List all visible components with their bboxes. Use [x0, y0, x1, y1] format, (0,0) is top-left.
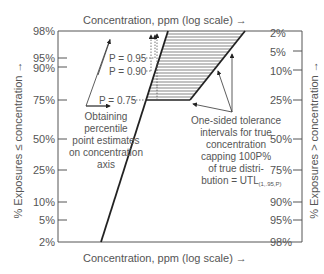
- p-level-labels: P = 0.95 P = 0.90 P = 0.75: [99, 53, 147, 106]
- svg-text:50%: 50%: [270, 133, 292, 145]
- svg-text:50%: 50%: [33, 133, 55, 145]
- right-axis-labels: 2% 5% 10% 25% 50% 75% 90% 95% 98%: [270, 27, 292, 248]
- svg-text:P = 0.95: P = 0.95: [109, 53, 147, 64]
- svg-text:90%: 90%: [270, 196, 292, 208]
- svg-text:concentration: concentration: [206, 139, 266, 150]
- left-y-axis-label: % Exposures ≤ concentration →: [12, 61, 24, 218]
- svg-text:25%: 25%: [33, 164, 55, 176]
- svg-text:10%: 10%: [33, 196, 55, 208]
- svg-text:on concentration: on concentration: [69, 147, 143, 158]
- svg-text:10%: 10%: [270, 65, 292, 77]
- svg-text:5%: 5%: [39, 214, 55, 226]
- left-axis-labels: 98% 95% 90% 75% 50% 25% 10% 5% 2%: [33, 25, 55, 248]
- top-axis-label: Concentration, ppm (log scale) →: [83, 14, 247, 26]
- svg-text:5%: 5%: [270, 46, 286, 58]
- svg-text:axis: axis: [97, 159, 115, 170]
- right-annotation-arrows: [193, 54, 232, 112]
- svg-text:P = 0.75: P = 0.75: [99, 95, 137, 106]
- right-axis-ticks: [293, 51, 302, 220]
- left-axis-ticks: [58, 58, 67, 220]
- probability-plot: Concentration, ppm (log scale) → Concent…: [0, 0, 324, 274]
- svg-text:75%: 75%: [270, 164, 292, 176]
- svg-text:2%: 2%: [270, 27, 286, 39]
- svg-text:intervals for true: intervals for true: [200, 127, 272, 138]
- svg-text:2%: 2%: [39, 236, 55, 248]
- svg-text:P = 0.90: P = 0.90: [109, 66, 147, 77]
- left-annotation-text: Obtaining percentile point estimates on …: [69, 111, 143, 170]
- right-annotation-text: One-sided tolerance intervals for true c…: [191, 115, 282, 187]
- utl-subscript: (1,.95,P): [258, 181, 281, 187]
- svg-text:One-sided tolerance: One-sided tolerance: [191, 115, 281, 126]
- svg-text:bution = UTL: bution = UTL: [201, 175, 259, 186]
- svg-text:95%: 95%: [270, 214, 292, 226]
- right-y-axis-label: % Exposures > concentration →: [308, 61, 320, 218]
- svg-text:of true distri-: of true distri-: [208, 163, 264, 174]
- svg-text:capping 100P%: capping 100P%: [201, 151, 271, 162]
- svg-text:percentile: percentile: [84, 123, 128, 134]
- svg-text:point estimates: point estimates: [72, 135, 139, 146]
- svg-text:Obtaining: Obtaining: [85, 111, 128, 122]
- svg-text:25%: 25%: [270, 94, 292, 106]
- svg-text:75%: 75%: [33, 94, 55, 106]
- utl-line: [190, 31, 245, 100]
- svg-text:90%: 90%: [33, 62, 55, 74]
- svg-text:98%: 98%: [270, 236, 292, 248]
- bottom-axis-label: Concentration, ppm (log scale) →: [83, 252, 247, 264]
- svg-text:98%: 98%: [33, 25, 55, 37]
